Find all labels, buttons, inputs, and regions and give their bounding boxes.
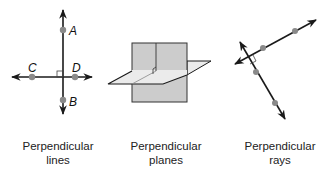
label-a: A <box>68 24 77 38</box>
caption-perpendicular-planes: Perpendicular planes <box>116 139 216 167</box>
label-c: C <box>28 61 37 75</box>
perpendicular-planes-figure <box>108 43 211 102</box>
caption-line-1: Perpendicular <box>8 139 108 153</box>
ray-1 <box>235 20 316 64</box>
caption-line-1: Perpendicular <box>230 139 323 153</box>
ray-2-point-2 <box>272 100 278 106</box>
horizontal-plane-back <box>187 61 211 75</box>
ray-2-point-1 <box>253 69 259 75</box>
right-angle-mark <box>57 71 63 77</box>
ray-1-point-2 <box>292 28 298 34</box>
perpendicular-rays-figure <box>235 20 316 119</box>
ray-1-point-1 <box>260 45 266 51</box>
caption-perpendicular-rays: Perpendicular rays <box>230 139 323 167</box>
caption-line-2: rays <box>230 153 323 167</box>
label-b: B <box>69 95 77 109</box>
point-a <box>60 27 66 33</box>
caption-line-2: planes <box>116 153 216 167</box>
caption-line-2: lines <box>8 153 108 167</box>
caption-line-1: Perpendicular <box>116 139 216 153</box>
ray-2 <box>240 42 285 119</box>
caption-perpendicular-lines: Perpendicular lines <box>8 139 108 167</box>
label-d: D <box>72 61 81 75</box>
point-b <box>60 97 66 103</box>
perpendicular-lines-figure: A C D B <box>12 10 92 114</box>
